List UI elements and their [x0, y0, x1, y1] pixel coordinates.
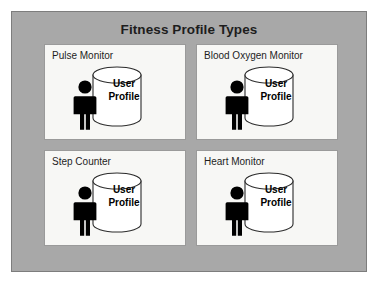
panel-label: Heart Monitor [204, 156, 265, 168]
user-profile-store-group: User Profile [67, 66, 167, 136]
person-icon [67, 172, 167, 242]
person-icon [219, 172, 319, 242]
person-icon [67, 66, 167, 136]
page-title: Fitness Profile Types [12, 22, 366, 38]
panel-label: Step Counter [52, 156, 111, 168]
diagram-frame: Fitness Profile Types Pulse Monitor User… [11, 11, 367, 272]
person-icon [219, 66, 319, 136]
user-profile-store-group: User Profile [219, 172, 319, 242]
panel-step-counter[interactable]: Step Counter User Profile [44, 150, 186, 246]
panel-blood-oxygen-monitor[interactable]: Blood Oxygen Monitor User Profile [196, 44, 338, 140]
panel-heart-monitor[interactable]: Heart Monitor User Profile [196, 150, 338, 246]
panel-grid: Pulse Monitor User Profile Blood Oxygen … [44, 44, 337, 246]
user-profile-store-group: User Profile [67, 172, 167, 242]
panel-label: Pulse Monitor [52, 50, 113, 62]
panel-pulse-monitor[interactable]: Pulse Monitor User Profile [44, 44, 186, 140]
panel-label: Blood Oxygen Monitor [204, 50, 303, 62]
user-profile-store-group: User Profile [219, 66, 319, 136]
